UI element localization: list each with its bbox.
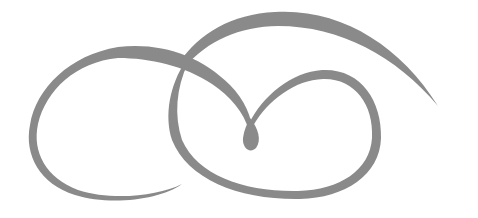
flourish-ornament-icon [0,0,478,218]
flourish-canvas [0,0,478,218]
right-loop-stroke [168,62,381,199]
upper-arc-stroke [180,12,438,106]
